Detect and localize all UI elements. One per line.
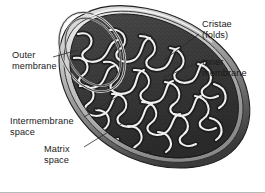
mitochondrion-diagram: Outer membrane Cristae (folds) Inner mem… (0, 0, 265, 193)
label-matrix-space: Matrix space (44, 144, 72, 165)
label-cristae-folds-line-2: (folds) (202, 30, 228, 40)
label-cristae-folds-line-1: Cristae (202, 19, 232, 29)
label-inner-membrane: Inner membrane (202, 57, 247, 78)
label-intermembrane-space: Intermembrane space (10, 116, 76, 137)
label-matrix-space-line-2: space (44, 155, 69, 165)
label-intermembrane-space-line-1: Intermembrane (10, 116, 74, 126)
label-outer-membrane-line-1: Outer (12, 50, 35, 60)
label-outer-membrane-line-2: membrane (12, 61, 57, 71)
mitochondrion-illustration: Outer membrane Cristae (folds) Inner mem… (0, 0, 265, 193)
label-intermembrane-space-line-2: space (10, 127, 35, 137)
label-matrix-space-line-1: Matrix (44, 144, 70, 154)
label-outer-membrane: Outer membrane (12, 50, 57, 71)
label-cristae-folds: Cristae (folds) (202, 19, 234, 40)
label-inner-membrane-line-2: membrane (202, 68, 247, 78)
label-inner-membrane-line-1: Inner (202, 57, 223, 67)
